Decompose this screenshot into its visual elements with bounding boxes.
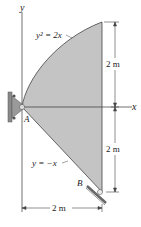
x-axis-label: x: [131, 101, 137, 112]
roller-support-icon: [86, 186, 106, 205]
line-leader: [62, 161, 68, 163]
lower-height-label: 2 m: [106, 144, 120, 154]
point-b-label: B: [77, 178, 83, 188]
parabola-equation-label: y² = 2x: [35, 30, 62, 40]
parabola-leader: [66, 35, 72, 38]
point-a-label: A: [23, 114, 30, 124]
diagram-canvas: y x y² = 2x y = −x A B 2 m 2 m 2 m: [0, 0, 141, 227]
upper-height-label: 2 m: [106, 59, 120, 69]
y-axis-label: y: [19, 2, 25, 13]
line-equation-label: y = −x: [31, 158, 57, 168]
width-label: 2 m: [52, 203, 66, 213]
